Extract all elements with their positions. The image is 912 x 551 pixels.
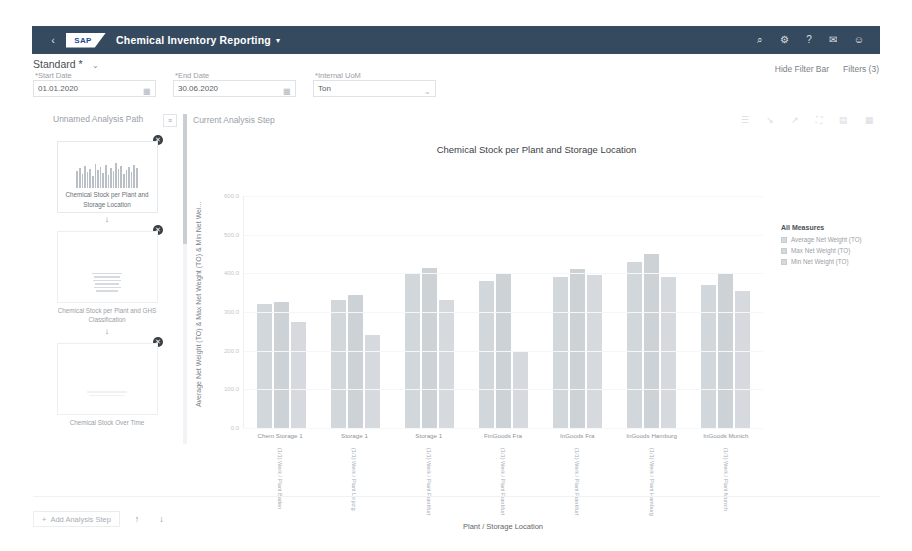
step-connector-arrow-icon: ↓ [57,213,158,225]
y-axis-tick: 300.0 [224,309,239,315]
analysis-step-card[interactable] [57,231,158,303]
bar[interactable] [627,262,642,428]
chevron-down-icon[interactable]: ⌄ [92,61,99,70]
analysis-step-label: Chemical Stock per Plant and Storage Loc… [61,188,154,209]
calendar-icon[interactable]: ▦ [283,84,291,99]
bar[interactable] [644,254,659,428]
legend-swatch [781,259,787,265]
filters-count-button[interactable]: Filters (3) [843,64,879,74]
drill-up-icon[interactable]: ↗ [791,116,799,125]
bar[interactable] [661,277,676,428]
legend-label: Average Net Weight (TO) [791,236,862,243]
app-title: Chemical Inventory Reporting [116,34,271,46]
bar[interactable] [553,277,568,428]
details-icon[interactable]: ☰ [741,116,749,125]
y-axis-tick: 200.0 [224,348,239,354]
analysis-step-card[interactable]: Chemical Stock per Plant and Storage Loc… [57,141,158,213]
search-icon[interactable]: ⌕ [757,35,763,45]
x-axis-labels: Chem Storage 1Storage 1Storage 1FinGoods… [243,432,763,446]
scrollbar-thumb[interactable] [183,114,187,244]
analysis-step-label: Chemical Stock Over Time [57,418,158,427]
app-title-chevron-down-icon[interactable]: ▾ [276,36,280,45]
y-axis-tick: 600.0 [224,193,239,199]
add-analysis-step-label: Add Analysis Step [50,515,110,524]
bar[interactable] [570,269,585,428]
legend-label: Max Net Weight (TO) [791,247,850,254]
hide-filter-bar-button[interactable]: Hide Filter Bar [775,64,829,74]
bar[interactable] [331,300,346,428]
bar[interactable] [274,302,289,428]
fullscreen-icon[interactable]: ⛶ [816,116,822,125]
calendar-icon[interactable]: ▦ [143,84,151,99]
analysis-path-scrollbar[interactable] [183,114,187,444]
x-axis-label: FinGoods Fra [466,432,540,446]
help-icon[interactable]: ? [806,35,812,45]
grid-line [244,235,763,236]
step-connector-arrow-icon: ↓ [57,325,158,337]
start-date-input[interactable]: 01.01.2020 ▦ [33,80,156,97]
bar[interactable] [365,335,380,428]
sap-logo-text: SAP [74,36,91,45]
analysis-path-title: Unnamed Analysis Path [53,114,143,124]
x-axis-label: Storage 1 [317,432,391,446]
overflow-menu-icon[interactable]: ≡ [163,114,177,127]
app-page: ‹ SAP Chemical Inventory Reporting ▾ ⌕ ⚙… [0,0,912,551]
analysis-step-1[interactable]: ✕ Chemical Stock per Plant and Storage L… [57,141,158,225]
footer-divider [33,496,880,497]
drill-down-icon[interactable]: ↘ [766,116,774,125]
move-step-down-icon[interactable]: ↓ [154,514,169,524]
start-date-value: 01.01.2020 [38,81,139,96]
chart-type-icon[interactable]: ▤ [839,116,848,125]
x-axis-label: InGoods Munich [689,432,763,446]
legend-toggle-icon[interactable]: ▦ [865,116,874,125]
analysis-step-3[interactable]: ✕ Chemical Stock Over Time [57,343,158,427]
move-step-up-icon[interactable]: ↑ [130,514,145,524]
y-axis-tick: 500.0 [224,232,239,238]
bar[interactable] [439,300,454,428]
y-axis-title: Average Net Weight (TO) & Max Net Weight… [195,184,207,424]
bar[interactable] [701,285,716,428]
shell-bar: ‹ SAP Chemical Inventory Reporting ▾ ⌕ ⚙… [32,26,880,54]
chart-plot-area: Average Net Weight (TO) & Max Net Weight… [193,166,880,496]
end-date-input[interactable]: 30.06.2020 ▦ [173,80,296,97]
user-avatar-icon[interactable]: ☺ [854,35,864,45]
chart-legend: All Measures Average Net Weight (TO)Max … [781,224,881,269]
bar[interactable] [291,322,306,428]
chart-bars-region [243,196,763,428]
legend-item[interactable]: Average Net Weight (TO) [781,236,881,243]
x-axis-label: Storage 1 [392,432,466,446]
bar[interactable] [257,304,272,428]
bar[interactable] [422,268,437,428]
footer-toolbar: + Add Analysis Step ↑ ↓ [33,508,880,530]
grid-line [244,196,763,197]
legend-item[interactable]: Min Net Weight (TO) [781,258,881,265]
notifications-bell-icon[interactable]: ✉ [829,35,837,45]
plus-icon: + [42,515,46,524]
chart-title: Chemical Stock per Plant and Storage Loc… [193,144,880,155]
add-analysis-step-button[interactable]: + Add Analysis Step [33,511,120,527]
analysis-path-header: Unnamed Analysis Path ≡ [33,112,181,127]
internal-uom-label: *Internal UoM [315,71,361,80]
analysis-step-2[interactable]: ✕ Chemical Stock per Plant and GHS Class… [57,231,158,337]
chart-container: Chemical Stock per Plant and Storage Loc… [193,134,880,496]
end-date-value: 30.06.2020 [178,81,279,96]
internal-uom-select[interactable]: Ton ⌄ [313,80,436,97]
legend-item[interactable]: Max Net Weight (TO) [781,247,881,254]
back-arrow-icon[interactable]: ‹ [42,34,64,46]
x-axis-label: InGoods Fra [540,432,614,446]
chart-toolbar: ☰ ↘ ↗ ⛶ ▤ ▦ [741,116,880,125]
filter-bar: *Start Date 01.01.2020 ▦ *End Date 30.06… [33,80,453,106]
bar-chart-thumbnail [61,154,154,188]
end-date-label: *End Date [175,71,209,80]
table-thumbnail [61,265,154,299]
bar[interactable] [348,295,363,428]
analysis-step-card[interactable] [57,343,158,415]
legend-title: All Measures [781,224,881,231]
grid-line [244,428,763,429]
bar[interactable] [479,281,494,428]
variant-selector[interactable]: Standard * ⌄ [33,58,99,70]
filter-internal-uom: *Internal UoM Ton ⌄ [313,80,433,106]
settings-gear-icon[interactable]: ⚙ [780,35,789,45]
line-chart-thumbnail [61,377,154,411]
chevron-down-icon[interactable]: ⌄ [424,84,431,99]
